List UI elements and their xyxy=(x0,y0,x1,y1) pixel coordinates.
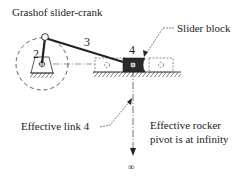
diagram-title: Grashof slider-crank xyxy=(12,6,103,18)
infinity-arrow-icon xyxy=(130,148,136,156)
slider-block-leader xyxy=(146,28,174,54)
rocker-label-line2: pivot is at infinity xyxy=(150,133,229,145)
slider-block-arrow-icon xyxy=(143,50,148,57)
crank-pin-joint xyxy=(42,34,49,41)
slider-block-label: Slider block xyxy=(177,22,231,34)
slider-block xyxy=(123,58,145,72)
slider-ground-rail xyxy=(93,72,181,77)
link-4-label: 4 xyxy=(129,43,135,57)
rocker-label-line1: Effective rocker xyxy=(150,119,221,131)
link-3-label: 3 xyxy=(84,35,90,49)
effective-link-label: Effective link 4 xyxy=(21,120,90,132)
slider-ghost-right xyxy=(149,58,173,72)
infinity-symbol: ∞ xyxy=(128,162,134,172)
link-2-label: 2 xyxy=(33,47,39,61)
effective-link-leader xyxy=(100,101,130,127)
slider-crank-diagram: Grashof slider-crank 2 3 xyxy=(0,0,247,177)
